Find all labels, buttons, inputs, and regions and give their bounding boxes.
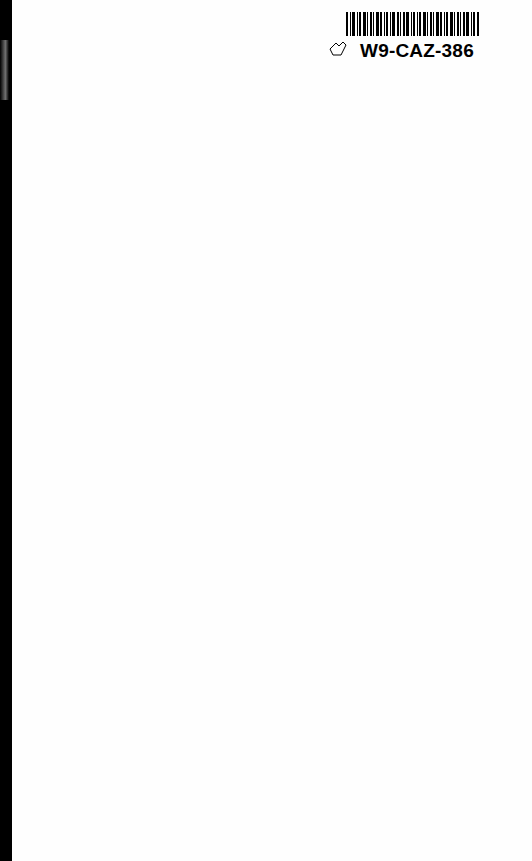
barcode-sticker: W9-CAZ-386 [324, 8, 524, 58]
book-spine-edge [0, 0, 12, 861]
blank-page [12, 0, 532, 861]
barcode [346, 12, 484, 36]
tag-outline-icon [329, 41, 347, 57]
barcode-label-text: W9-CAZ-386 [360, 40, 474, 62]
